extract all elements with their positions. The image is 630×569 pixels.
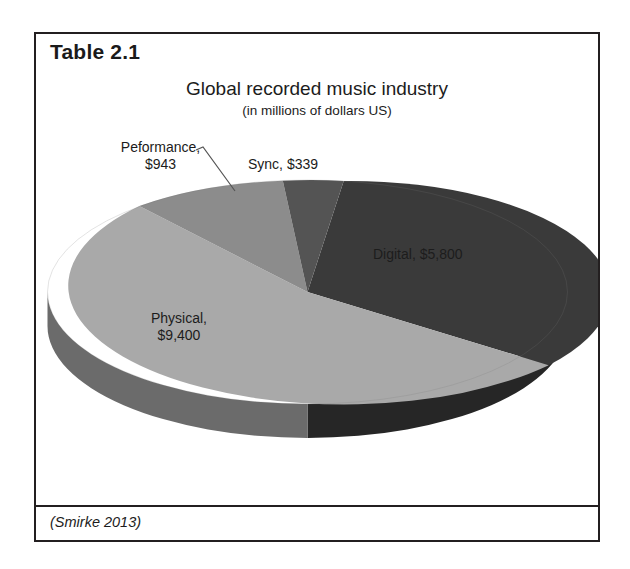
figure-box: Table 2.1 Global recorded music industry… <box>34 32 600 542</box>
slice-label-performance: Peformance, $943 <box>98 139 223 173</box>
slice-label-sync: Sync, $339 <box>248 156 368 173</box>
caption-divider <box>36 505 598 507</box>
figure-source-caption: (Smirke 2013) <box>50 514 141 530</box>
pie-chart: Global recorded music industry (in milli… <box>36 34 598 540</box>
slice-label-digital: Digital, $5,800 <box>373 246 543 263</box>
slice-label-physical: Physical, $9,400 <box>114 310 244 344</box>
pie-chart-graphic <box>36 34 598 540</box>
